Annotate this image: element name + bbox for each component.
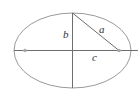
right-focus-point (117, 49, 121, 53)
left-focus-point (23, 49, 27, 53)
hypotenuse-a (73, 13, 120, 51)
label-c: c (92, 51, 97, 63)
label-a: a (99, 23, 105, 35)
label-b: b (63, 28, 69, 40)
ellipse-diagram: b a c (0, 0, 139, 94)
